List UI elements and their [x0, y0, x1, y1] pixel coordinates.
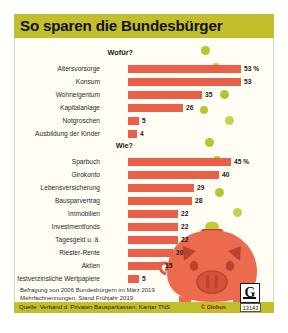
chart-row: Girokonto 40 — [15, 170, 274, 180]
bar-value: 45 % — [234, 157, 249, 167]
chart-row: Riester-Rente 20 — [15, 248, 274, 258]
bar — [128, 275, 139, 283]
infographic-root: So sparen die Bundesbürger — [0, 0, 288, 333]
chart-row: Konsum 53 — [15, 77, 274, 87]
bar — [128, 158, 231, 166]
bar-label: Altersvorsorge — [14, 64, 100, 74]
globus-logo-underline — [243, 297, 256, 299]
bar — [128, 262, 162, 270]
bar-label: Notgroschen — [14, 116, 100, 126]
coin-decor-icon — [201, 46, 210, 55]
source-text: Quelle: Verband d. Privaten Bausparkasse… — [19, 303, 170, 312]
section-caption-wofuer: Wofür? — [15, 48, 133, 57]
chart-row: Lebensversicherung 29 — [15, 183, 274, 193]
chart-row: festverzinsliche Wertpapiere 5 — [15, 274, 274, 284]
bar-label: Lebensversicherung — [14, 183, 100, 193]
bar-value: 40 — [222, 170, 229, 180]
bar-value: 20 — [176, 248, 183, 258]
bar-value: 22 — [181, 222, 188, 232]
chart-panel: Wofür? Altersvorsorge 53 % Konsum 53 Woh… — [14, 38, 274, 302]
coin-decor-icon — [205, 138, 214, 147]
chart-row: Notgroschen 5 — [15, 116, 274, 126]
bar — [128, 249, 173, 257]
bar-value: 35 — [205, 90, 212, 100]
bar-value: 29 — [197, 183, 204, 193]
bar — [128, 223, 178, 231]
bar-label: Aktien — [14, 261, 100, 271]
bar-label: Tagesgeld u. ä. — [14, 235, 100, 245]
footnote-line-1: Befragung von 2006 Bundesbürgern im März… — [20, 286, 155, 294]
footnote-line-2: Mehrfachnennungen, Stand Frühjahr 2019 — [20, 294, 133, 302]
bar-value: 22 — [181, 235, 188, 245]
chart-row: Immobilien 22 — [15, 209, 274, 219]
chart-row: Bausparvertrag 28 — [15, 196, 274, 206]
bar — [128, 65, 241, 73]
bar — [128, 197, 192, 205]
chart-row: Investmentfonds 22 — [15, 222, 274, 232]
bar-label: Bausparvertrag — [14, 196, 100, 206]
bar-label: Wohneigentum — [14, 90, 100, 100]
bar — [128, 78, 241, 86]
chart-row: Altersvorsorge 53 % — [15, 64, 274, 74]
bar-value: 5 — [142, 274, 146, 284]
chart-row: Aktien 15 — [15, 261, 274, 271]
globus-logo-icon: G — [240, 283, 260, 303]
bar — [128, 184, 194, 192]
bar-label: Konsum — [14, 77, 100, 87]
bar-label: Ausbildung der Kinder — [14, 129, 100, 139]
bar — [128, 210, 178, 218]
bar-label: festverzinsliche Wertpapiere — [14, 274, 100, 284]
chart-row: Tagesgeld u. ä. 22 — [15, 235, 274, 245]
bar-label: Sparbuch — [14, 157, 100, 167]
bar-value: 28 — [195, 196, 202, 206]
bar-value: 15 — [165, 261, 172, 271]
page-title: So sparen die Bundesbürger — [20, 16, 274, 36]
bar — [128, 236, 178, 244]
chart-row: Wohneigentum 35 — [15, 90, 274, 100]
bar-value: 5 — [142, 116, 146, 126]
bar-value: 22 — [181, 209, 188, 219]
graphic-id-badge: 13143 — [240, 303, 261, 312]
section-caption-wie: Wie? — [15, 141, 133, 150]
bar-label: Girokonto — [14, 170, 100, 180]
bar-value: 53 % — [244, 64, 259, 74]
chart-row: Sparbuch 45 % — [15, 157, 274, 167]
bar-value: 26 — [186, 103, 193, 113]
chart-row: Ausbildung der Kinder 4 — [15, 129, 274, 139]
bar-label: Kapitalanlage — [14, 103, 100, 113]
chart-row: Kapitalanlage 26 — [15, 103, 274, 113]
copyright-label: © Globus — [201, 304, 226, 310]
bar-label: Riester-Rente — [14, 248, 100, 258]
bar-label: Immobilien — [14, 209, 100, 219]
bar — [128, 117, 139, 125]
bar — [128, 91, 202, 99]
bar — [128, 130, 137, 138]
bar — [128, 104, 183, 112]
bar-label: Investmentfonds — [14, 222, 100, 232]
bar-value: 53 — [244, 77, 251, 87]
bar — [128, 171, 219, 179]
bar-value: 4 — [140, 129, 144, 139]
